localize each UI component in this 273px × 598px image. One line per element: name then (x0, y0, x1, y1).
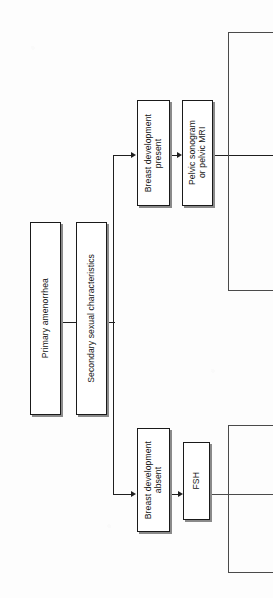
arrowhead-to-breast-present (131, 152, 136, 158)
connector-primary-to-secondary (61, 322, 77, 323)
fork-lower-branch-bottom (228, 572, 273, 573)
fork-upper-branch-bottom (228, 290, 273, 291)
fork-lower-stem (210, 494, 273, 495)
flowchart-canvas: Primary amenorrhea Secondary sexual char… (0, 0, 273, 598)
node-label: Primary amenorrhea (40, 278, 50, 358)
node-breast-development-absent[interactable]: Breast development absent (137, 428, 170, 532)
node-label: Pelvic sonogram or pelvic MRI (187, 120, 208, 185)
node-fsh[interactable]: FSH (183, 442, 210, 520)
fork-upper-branch-top (228, 32, 273, 33)
node-label: Secondary sexual characteristics (86, 254, 96, 383)
fork-lower-spine (228, 425, 229, 573)
connector-to-breast-absent (113, 494, 132, 495)
node-secondary-sexual-characteristics[interactable]: Secondary sexual characteristics (76, 222, 107, 415)
node-label: Breast development present (143, 114, 164, 192)
node-breast-development-present[interactable]: Breast development present (137, 100, 170, 206)
node-pelvic-sonogram-or-mri[interactable]: Pelvic sonogram or pelvic MRI (182, 100, 213, 206)
fork-upper-spine (228, 32, 229, 291)
connector-to-breast-present (113, 155, 132, 156)
connector-secondary-trunk-vertical (113, 155, 114, 495)
fork-upper-stem (213, 155, 273, 156)
node-label: FSH (191, 472, 201, 490)
fork-lower-branch-top (228, 425, 273, 426)
node-label: Breast development absent (143, 441, 164, 519)
arrowhead-to-breast-absent (131, 491, 136, 497)
node-primary-amenorrhea[interactable]: Primary amenorrhea (30, 222, 61, 415)
